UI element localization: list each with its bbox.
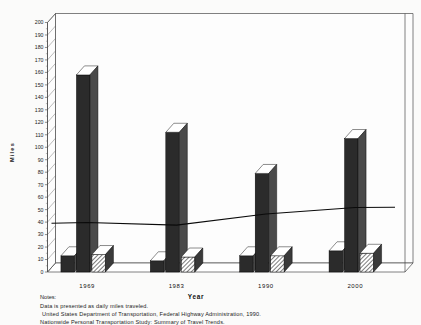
bar-1969-series2 (76, 66, 98, 272)
x-axis-labels: 1969198319902000 (79, 283, 363, 289)
y-tick-label: 80 (38, 169, 44, 175)
y-tick-label: 20 (38, 244, 44, 250)
y-tick-label: 130 (35, 107, 44, 113)
x-tick-label-2000: 2000 (347, 283, 363, 289)
x-tick-label-1983: 1983 (169, 283, 185, 289)
y-tick-label: 60 (38, 194, 44, 200)
notes-line-2: United States Department of Transportati… (42, 311, 261, 317)
y-tick-label: 160 (35, 69, 44, 75)
bar-chart-canvas: 0102030405060708090100110120130140150160… (0, 0, 421, 325)
y-tick-label: 0 (41, 269, 44, 275)
y-tick-label: 120 (35, 119, 44, 125)
y-axis-title: Miles (9, 142, 15, 162)
notes-block: Notes:Data is presented as daily miles t… (40, 294, 261, 325)
y-tick-label: 150 (35, 82, 44, 88)
y-tick-label: 140 (35, 94, 44, 100)
notes-line-1: Data is presented as daily miles travele… (40, 303, 149, 309)
x-tick-label-1969: 1969 (79, 283, 95, 289)
y-tick-label: 110 (35, 132, 43, 138)
y-tick-label: 170 (35, 57, 44, 63)
y-tick-label: 180 (35, 44, 44, 50)
chart-figure: 0102030405060708090100110120130140150160… (0, 0, 421, 325)
x-axis-title: Year (188, 293, 204, 300)
notes-heading: Notes: (40, 294, 57, 300)
y-tick-label: 30 (38, 231, 44, 237)
y-tick-label: 10 (38, 256, 44, 262)
y-tick-label: 200 (35, 19, 44, 25)
y-tick-label: 70 (38, 182, 44, 188)
notes-line-3: Nationwide Personal Transportation Study… (40, 319, 225, 325)
x-tick-label-1990: 1990 (258, 283, 274, 289)
y-tick-label: 40 (38, 219, 44, 225)
y-tick-label: 90 (38, 157, 44, 163)
y-tick-label: 50 (38, 207, 44, 213)
bar-1983-series2 (166, 123, 188, 272)
y-tick-label: 100 (35, 144, 44, 150)
y-tick-label: 190 (35, 32, 44, 38)
